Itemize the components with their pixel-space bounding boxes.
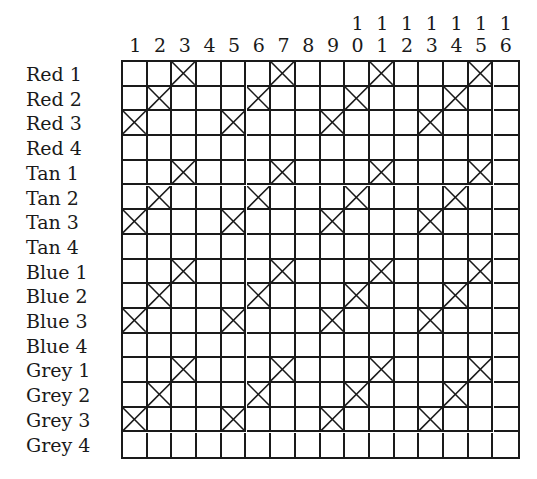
grid-cell	[222, 161, 247, 186]
grid-cell	[321, 235, 346, 260]
grid-cell	[444, 210, 469, 235]
grid-cell	[222, 136, 247, 161]
grid-cell	[469, 87, 494, 112]
grid-cell	[148, 433, 173, 458]
grid-cell	[247, 210, 272, 235]
grid-cell	[148, 111, 173, 136]
grid-cell	[222, 433, 247, 458]
grid-cell	[271, 62, 296, 87]
grid-cell	[494, 309, 519, 334]
grid-cell	[494, 210, 519, 235]
grid-cell	[395, 186, 420, 211]
grid-cell	[222, 309, 247, 334]
grid-cell	[271, 260, 296, 285]
grid-cell	[321, 358, 346, 383]
grid-cell	[148, 62, 173, 87]
grid-cell	[494, 358, 519, 383]
grid-cell	[197, 260, 222, 285]
grid-cell	[444, 186, 469, 211]
x-mark-icon	[345, 87, 368, 110]
x-mark-icon	[444, 383, 467, 406]
grid-cell	[271, 161, 296, 186]
grid-cell	[123, 433, 148, 458]
grid-cell	[222, 235, 247, 260]
row-label: Red 4	[26, 136, 120, 161]
grid-cell	[197, 309, 222, 334]
grid-cell	[296, 235, 321, 260]
grid-cell	[197, 161, 222, 186]
grid-cell	[469, 309, 494, 334]
grid	[121, 60, 520, 459]
grid-cell	[395, 87, 420, 112]
grid-cell	[172, 383, 197, 408]
grid-cell	[172, 408, 197, 433]
grid-cell	[197, 62, 222, 87]
grid-cell	[148, 161, 173, 186]
grid-cell	[419, 161, 444, 186]
grid-cell	[172, 309, 197, 334]
grid-cell	[444, 284, 469, 309]
grid-cell	[197, 210, 222, 235]
grid-cell	[271, 334, 296, 359]
x-mark-icon	[222, 210, 245, 233]
grid-cell	[197, 136, 222, 161]
grid-cell	[444, 309, 469, 334]
grid-cell	[494, 87, 519, 112]
grid-cell	[469, 136, 494, 161]
grid-cell	[469, 62, 494, 87]
grid-cell	[395, 111, 420, 136]
grid-cell	[345, 358, 370, 383]
grid-cell	[247, 408, 272, 433]
grid-cell	[222, 186, 247, 211]
grid-cell	[123, 408, 148, 433]
grid-cell	[247, 358, 272, 383]
grid-cell	[395, 210, 420, 235]
column-label: 1	[123, 36, 148, 55]
x-mark-icon	[469, 358, 492, 381]
column-label: 7	[271, 36, 296, 55]
grid-cell	[469, 334, 494, 359]
grid-cell	[345, 334, 370, 359]
x-mark-icon	[172, 161, 195, 184]
column-label: 16	[494, 14, 519, 58]
grid-cell	[247, 309, 272, 334]
grid-cell	[395, 309, 420, 334]
grid-cell	[321, 408, 346, 433]
x-mark-icon	[469, 161, 492, 184]
grid-cell	[321, 309, 346, 334]
x-mark-icon	[370, 161, 393, 184]
grid-cell	[148, 235, 173, 260]
row-label: Blue 2	[26, 284, 120, 309]
grid-cell	[494, 186, 519, 211]
grid-cell	[148, 87, 173, 112]
grid-cell	[395, 433, 420, 458]
x-mark-icon	[345, 284, 368, 307]
grid-cell	[271, 358, 296, 383]
grid-cell	[222, 111, 247, 136]
grid-cell	[444, 161, 469, 186]
x-mark-icon	[148, 87, 171, 110]
x-mark-icon	[172, 358, 195, 381]
grid-cell	[172, 433, 197, 458]
grid-cell	[222, 284, 247, 309]
grid-cell	[123, 260, 148, 285]
grid-cell	[419, 260, 444, 285]
grid-cell	[395, 136, 420, 161]
grid-cell	[321, 433, 346, 458]
grid-cell	[123, 284, 148, 309]
grid-cell	[345, 260, 370, 285]
grid-cell	[494, 408, 519, 433]
x-mark-icon	[123, 111, 146, 134]
grid-cell	[222, 358, 247, 383]
grid-cell	[197, 186, 222, 211]
grid-cell	[469, 358, 494, 383]
grid-cell	[395, 235, 420, 260]
grid-cell	[469, 408, 494, 433]
grid-cell	[370, 87, 395, 112]
grid-cell	[419, 210, 444, 235]
grid-cell	[494, 260, 519, 285]
row-label: Blue 3	[26, 309, 120, 334]
grid-cell	[271, 383, 296, 408]
x-mark-icon	[123, 309, 146, 332]
row-label: Grey 4	[26, 433, 120, 458]
